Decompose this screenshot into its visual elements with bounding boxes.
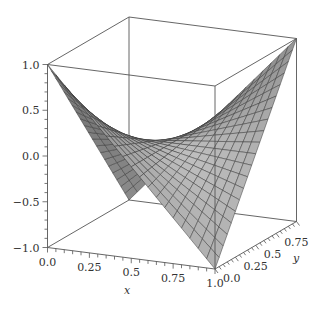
- surface-mesh: [48, 39, 297, 270]
- surface-plot: 1.00.50.0−0.5−1.0 0.00.250.50.751.0 0.00…: [0, 0, 320, 311]
- y-tick: [256, 245, 259, 249]
- y-tick: [227, 262, 229, 265]
- y-tick: [264, 241, 266, 244]
- y-tick: [231, 260, 233, 263]
- y-tick: [297, 222, 300, 226]
- y-tick: [223, 264, 225, 267]
- y-tick: [248, 250, 250, 253]
- z-tick-label: 1.0: [22, 59, 40, 72]
- x-tick-label: 0.25: [77, 261, 102, 274]
- y-tick: [219, 267, 221, 270]
- y-tick: [292, 224, 294, 227]
- y-tick: [260, 243, 262, 246]
- y-tick: [272, 236, 274, 239]
- z-tick-label: 0.0: [22, 150, 40, 163]
- x-tick-label: 0.75: [161, 272, 186, 285]
- y-tick: [280, 231, 282, 234]
- y-tick: [284, 229, 286, 232]
- y-tick-label: 0.75: [284, 236, 309, 249]
- y-tick: [268, 238, 270, 241]
- box-edge: [129, 17, 297, 39]
- box-edge: [48, 65, 216, 87]
- box-edge: [48, 17, 130, 65]
- x-axis: 0.00.250.50.751.0: [39, 248, 224, 291]
- y-tick: [215, 269, 218, 273]
- y-tick: [288, 226, 290, 229]
- z-tick-label: 0.5: [22, 104, 40, 117]
- y-tick-label: 0.25: [243, 260, 268, 273]
- y-tick: [239, 255, 241, 258]
- y-tick: [276, 233, 279, 237]
- y-tick-label: 0.0: [223, 272, 241, 285]
- y-tick: [252, 248, 254, 251]
- y-tick-label: 0.5: [264, 248, 282, 261]
- z-axis: 1.00.50.0−0.5−1.0: [13, 59, 48, 255]
- z-tick-label: −1.0: [13, 242, 40, 255]
- x-axis-label: x: [124, 284, 131, 297]
- y-tick: [244, 252, 246, 255]
- x-tick-label: 0.5: [123, 266, 141, 279]
- z-tick-label: −0.5: [13, 196, 40, 209]
- y-tick: [235, 257, 238, 261]
- box-edge: [48, 200, 130, 248]
- x-tick-label: 1.0: [206, 277, 224, 290]
- x-tick-label: 0.0: [39, 256, 57, 269]
- y-axis-label: y: [292, 252, 300, 265]
